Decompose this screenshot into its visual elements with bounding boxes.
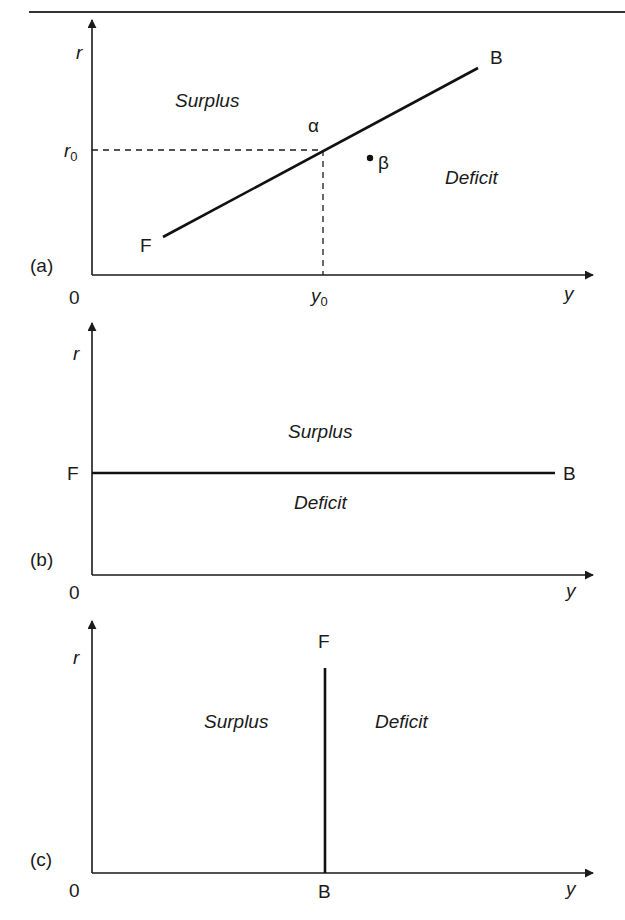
region-surplus: Surplus <box>288 421 353 442</box>
line-end-label: B <box>490 47 503 68</box>
region-deficit: Deficit <box>375 711 429 732</box>
y-axis-label: y <box>564 878 577 899</box>
panel-label: (a) <box>30 255 53 276</box>
line-end-label: B <box>318 881 331 902</box>
y-axis-label: y <box>564 580 577 601</box>
region-surplus: Surplus <box>204 711 269 732</box>
r0-tick-label: r0 <box>64 140 78 164</box>
panel-a: r B F Surplus Deficit α β r0 y0 (a) 0 y <box>30 20 593 309</box>
line-end-label: B <box>563 463 576 484</box>
origin-label: 0 <box>69 287 80 308</box>
region-deficit: Deficit <box>445 167 499 188</box>
origin-label: 0 <box>69 880 80 901</box>
line-start-label: F <box>67 463 79 484</box>
y0-tick-label: y0 <box>309 285 328 309</box>
fb-schedule-figure: r B F Surplus Deficit α β r0 y0 (a) 0 y … <box>0 0 625 920</box>
panel-label: (b) <box>30 549 53 570</box>
region-surplus: Surplus <box>175 90 240 111</box>
alpha-label: α <box>308 115 319 136</box>
panel-label: (c) <box>30 849 52 870</box>
line-start-label: F <box>140 235 152 256</box>
beta-label: β <box>378 152 389 173</box>
line-start-label: F <box>318 631 330 652</box>
panel-b: r F B Surplus Deficit (b) 0 y <box>30 323 593 603</box>
r-axis-label: r <box>73 647 80 668</box>
origin-label: 0 <box>69 582 80 603</box>
r-axis-label: r <box>76 42 83 63</box>
panel-c: r F B Surplus Deficit (c) 0 y <box>30 621 593 902</box>
y-axis-label: y <box>562 283 575 304</box>
region-deficit: Deficit <box>294 492 348 513</box>
r-axis-label: r <box>73 343 80 364</box>
beta-point <box>367 155 373 161</box>
